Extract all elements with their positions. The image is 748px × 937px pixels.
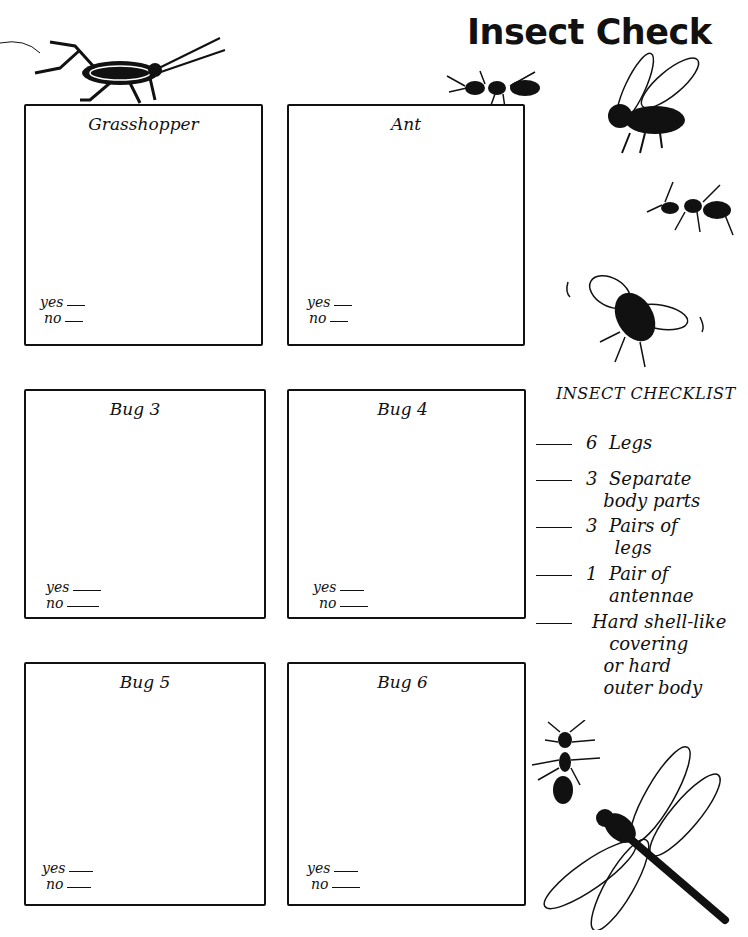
box-label: Bug 4 xyxy=(281,399,524,419)
yes-label: yes xyxy=(46,579,69,595)
fly-icon xyxy=(600,48,720,158)
dragonfly-icon xyxy=(540,740,740,930)
ant-icon xyxy=(645,180,735,240)
yes-label: yes xyxy=(42,860,65,876)
bee-icon xyxy=(560,262,720,372)
yes-blank[interactable] xyxy=(73,582,101,591)
answer-box-bug-4: Bug 4 yes no xyxy=(287,389,526,619)
yes-no-answer: yes no xyxy=(307,860,360,892)
answer-box-bug-3: Bug 3 yes no xyxy=(24,389,266,619)
no-label: no xyxy=(46,876,63,892)
check-blank[interactable] xyxy=(536,623,572,624)
check-blank[interactable] xyxy=(536,444,572,445)
box-label: Bug 5 xyxy=(26,672,264,692)
yes-label: yes xyxy=(313,579,336,595)
yes-blank[interactable] xyxy=(340,582,364,591)
box-label: Grasshopper xyxy=(26,114,261,134)
yes-no-answer: yes no xyxy=(307,294,352,326)
no-label: no xyxy=(44,310,61,326)
cricket-icon xyxy=(0,28,230,108)
answer-box-bug-6: Bug 6 yes no xyxy=(287,662,526,906)
box-label: Bug 6 xyxy=(281,672,524,692)
no-blank[interactable] xyxy=(332,879,360,888)
answer-box-ant: Ant yes no xyxy=(287,104,525,346)
box-label: Ant xyxy=(289,114,523,134)
answer-box-grasshopper: Grasshopper yes no xyxy=(24,104,263,346)
answer-box-bug-5: Bug 5 yes no xyxy=(24,662,266,906)
yes-blank[interactable] xyxy=(334,863,358,872)
yes-blank[interactable] xyxy=(334,297,352,306)
ant-icon xyxy=(445,66,545,108)
check-blank[interactable] xyxy=(536,480,572,481)
checklist-title: INSECT CHECKLIST xyxy=(556,384,736,403)
no-label: no xyxy=(311,876,328,892)
no-blank[interactable] xyxy=(330,313,348,322)
no-blank[interactable] xyxy=(65,313,83,322)
yes-blank[interactable] xyxy=(67,297,85,306)
yes-no-answer: yes no xyxy=(46,579,101,611)
no-label: no xyxy=(309,310,326,326)
no-label: no xyxy=(319,595,336,611)
yes-label: yes xyxy=(307,860,330,876)
no-label: no xyxy=(46,595,63,611)
yes-no-answer: yes no xyxy=(40,294,85,326)
yes-no-answer: yes no xyxy=(42,860,93,892)
yes-label: yes xyxy=(307,294,330,310)
yes-blank[interactable] xyxy=(69,863,93,872)
no-blank[interactable] xyxy=(67,598,99,607)
no-blank[interactable] xyxy=(340,598,368,607)
box-label: Bug 3 xyxy=(6,399,264,419)
yes-label: yes xyxy=(40,294,63,310)
yes-no-answer: yes no xyxy=(313,579,368,611)
no-blank[interactable] xyxy=(67,879,91,888)
page-title: Insect Check xyxy=(467,12,712,52)
check-blank[interactable] xyxy=(536,575,572,576)
check-blank[interactable] xyxy=(536,527,572,528)
